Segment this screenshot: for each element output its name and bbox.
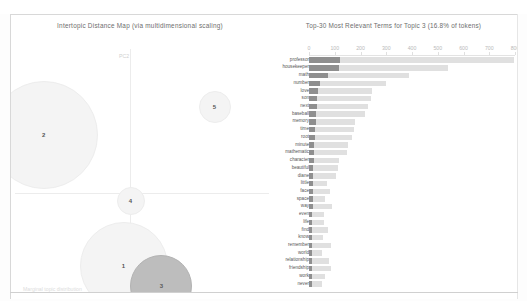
top-terms-panel: Top-30 Most Relevant Terms for Topic 3 (… — [270, 15, 517, 292]
bar-topic-frequency — [309, 220, 312, 225]
x-axis-tick-label: 200 — [356, 45, 365, 51]
bar-topic-frequency — [309, 57, 340, 62]
bar-topic-frequency — [309, 243, 312, 248]
x-axis-tick-label: 400 — [408, 45, 417, 51]
bar-topic-frequency — [309, 150, 314, 155]
bar-row[interactable]: beautiful — [270, 165, 517, 171]
x-axis-tick-mark — [335, 52, 336, 55]
x-axis-tick-mark — [489, 52, 490, 55]
intertopic-map-title: Intertopic Distance Map (via multidimens… — [11, 22, 269, 29]
bar-row[interactable]: love — [270, 88, 517, 94]
bar-term-label: memory — [292, 118, 309, 124]
bar-topic-frequency — [309, 189, 313, 194]
bar-row[interactable]: baseball — [270, 111, 517, 117]
bar-topic-frequency — [309, 88, 318, 93]
bar-topic-frequency — [309, 111, 316, 116]
bar-topic-frequency — [309, 104, 317, 109]
topic-bubble-label: 5 — [213, 104, 216, 110]
bar-term-label: space — [297, 196, 309, 202]
bar-term-label: baseball — [292, 111, 309, 117]
bar-topic-frequency — [309, 119, 316, 124]
bar-term-label: way — [301, 203, 309, 209]
bar-overall-frequency — [309, 258, 329, 263]
bar-row[interactable]: character — [270, 157, 517, 163]
page-frame-bottom-edge — [10, 292, 518, 293]
bar-term-label: love — [301, 88, 309, 94]
bar-row[interactable]: life — [270, 219, 517, 225]
x-axis-tick-label: 500 — [433, 45, 442, 51]
x-axis-tick-label: 800 — [511, 45, 517, 51]
bar-topic-frequency — [309, 142, 314, 147]
bar-row[interactable]: root — [270, 134, 517, 140]
bar-term-label: diane — [298, 173, 309, 179]
bar-chart-rows: professorhousekeepermathnumberlovesonnex… — [270, 57, 517, 292]
bar-row[interactable]: even — [270, 211, 517, 217]
bar-topic-frequency — [309, 196, 313, 201]
bar-row[interactable]: never — [270, 281, 517, 287]
bar-topic-frequency — [309, 181, 313, 186]
bar-topic-frequency — [309, 81, 320, 86]
bar-row[interactable]: find — [270, 227, 517, 233]
bar-row[interactable]: work — [270, 273, 517, 279]
bar-term-label: relationship — [286, 257, 310, 263]
bar-row[interactable]: time — [270, 126, 517, 132]
bar-row[interactable]: know — [270, 235, 517, 241]
bar-row[interactable]: diane — [270, 173, 517, 179]
bar-topic-frequency — [309, 250, 312, 255]
bar-row[interactable]: memory — [270, 119, 517, 125]
bar-topic-frequency — [309, 96, 317, 101]
bar-row[interactable]: son — [270, 96, 517, 102]
bar-overall-frequency — [309, 119, 355, 124]
bar-row[interactable]: friendship — [270, 265, 517, 271]
bar-row[interactable]: number — [270, 80, 517, 86]
topic-bubble-2[interactable]: 2 — [11, 81, 98, 189]
bar-row[interactable]: minute — [270, 142, 517, 148]
bar-row[interactable]: world — [270, 250, 517, 256]
bar-term-label: friendship — [289, 265, 309, 271]
bar-topic-frequency — [309, 281, 312, 286]
bar-term-label: world — [298, 250, 309, 256]
bar-row[interactable]: face — [270, 188, 517, 194]
bar-term-label: even — [299, 211, 309, 217]
bar-row[interactable]: next — [270, 103, 517, 109]
bar-row[interactable]: professor — [270, 57, 517, 63]
x-axis-tick-mark — [412, 52, 413, 55]
page-frame-right-edge — [517, 14, 518, 299]
bar-topic-frequency — [309, 127, 315, 132]
x-axis-tick-mark — [438, 52, 439, 55]
bar-topic-frequency — [309, 204, 313, 209]
topic-bubble-5[interactable]: 5 — [199, 91, 231, 123]
bar-row[interactable]: math — [270, 72, 517, 78]
bar-term-label: next — [300, 103, 309, 109]
bar-row[interactable]: remember — [270, 242, 517, 248]
bar-topic-frequency — [309, 235, 312, 240]
bar-topic-frequency — [309, 212, 312, 217]
bar-term-label: remember — [288, 242, 309, 248]
axis-label-pc2: PC2 — [119, 53, 129, 59]
x-axis-tick-mark — [361, 52, 362, 55]
page-top-margin — [0, 0, 527, 14]
bar-overall-frequency — [309, 104, 368, 109]
x-axis-tick-mark — [515, 52, 516, 55]
x-axis-tick-mark — [464, 52, 465, 55]
x-axis-tick-label: 300 — [382, 45, 391, 51]
bar-row[interactable]: way — [270, 204, 517, 210]
bar-topic-frequency — [309, 173, 313, 178]
bar-term-label: time — [300, 126, 309, 132]
topic-bubble-label: 2 — [42, 132, 45, 138]
topic-bubble-4[interactable]: 4 — [117, 187, 145, 215]
bar-row[interactable]: little — [270, 181, 517, 187]
bar-term-label: housekeeper — [282, 64, 309, 70]
intertopic-distance-map-panel: Intertopic Distance Map (via multidimens… — [11, 15, 269, 292]
bar-row[interactable]: relationship — [270, 258, 517, 264]
bar-row[interactable]: housekeeper — [270, 65, 517, 71]
bar-overall-frequency — [309, 111, 365, 116]
bar-term-label: know — [298, 234, 309, 240]
bar-row[interactable]: space — [270, 196, 517, 202]
x-axis-tick-label: 600 — [459, 45, 468, 51]
bar-term-label: minute — [295, 142, 309, 148]
bar-row[interactable]: mathematic — [270, 150, 517, 156]
topic-bubble-label: 4 — [129, 198, 132, 204]
bar-chart-top-axis — [309, 55, 515, 56]
x-axis-tick-mark — [386, 52, 387, 55]
